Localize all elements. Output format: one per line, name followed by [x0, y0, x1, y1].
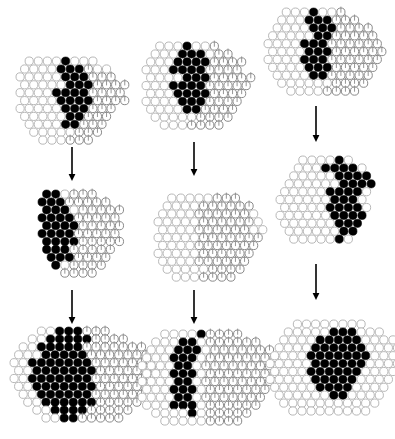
- cell-filled: [56, 230, 64, 238]
- cell-filled: [61, 222, 69, 230]
- cell-filled: [178, 66, 186, 74]
- cell-open: [291, 71, 299, 79]
- cell-filled: [349, 196, 357, 204]
- cell-open: [317, 203, 325, 211]
- cell-open: [316, 407, 324, 415]
- cell-open: [57, 81, 65, 89]
- cell-open: [287, 48, 295, 56]
- cell-open: [152, 409, 160, 417]
- cell-open: [276, 196, 284, 204]
- cell-marked: [215, 416, 223, 426]
- cell-open: [143, 401, 151, 409]
- cell-filled: [69, 382, 77, 390]
- cell-open: [192, 42, 200, 50]
- cell-open: [269, 32, 277, 40]
- cell-open: [299, 219, 307, 227]
- cell-filled: [310, 55, 318, 63]
- cell-open: [282, 40, 290, 48]
- cell-open: [266, 375, 274, 383]
- cell-filled: [314, 63, 322, 71]
- cell-open: [312, 227, 320, 235]
- cell-filled: [325, 383, 333, 391]
- cell-open: [61, 190, 69, 198]
- cell-filled: [47, 253, 55, 261]
- cell-marked: [243, 337, 251, 347]
- cell-open: [290, 203, 298, 211]
- cell-filled: [46, 374, 54, 382]
- cell-filled: [71, 89, 79, 97]
- cell-open: [169, 50, 177, 58]
- cell-open: [43, 57, 51, 65]
- cell-filled: [188, 409, 196, 417]
- cell-marked: [206, 416, 214, 426]
- cell-filled: [319, 40, 327, 48]
- cell-open: [170, 330, 178, 338]
- cell-filled: [174, 393, 182, 401]
- cell-marked: [247, 72, 255, 82]
- cell-open: [289, 407, 297, 415]
- cell-filled: [184, 346, 192, 354]
- cell-open: [52, 104, 60, 112]
- cell-filled: [52, 245, 60, 253]
- cell-filled: [305, 63, 313, 71]
- cell-open: [93, 65, 101, 73]
- cell-open: [186, 257, 194, 265]
- cell-marked: [124, 405, 132, 415]
- cell-open: [28, 343, 36, 351]
- cell-filled: [328, 24, 336, 32]
- cell-open: [303, 180, 311, 188]
- cell-open: [178, 121, 186, 129]
- cell-open: [284, 375, 292, 383]
- cell-open: [322, 227, 330, 235]
- cell-filled: [57, 97, 65, 105]
- cell-open: [273, 40, 281, 48]
- cell-marked: [115, 204, 123, 214]
- cell-open: [39, 97, 47, 105]
- cell-open: [142, 66, 150, 74]
- cell-open: [319, 8, 327, 16]
- cell-filled: [197, 97, 205, 105]
- cell-filled: [80, 104, 88, 112]
- cell-filled: [28, 374, 36, 382]
- cell-open: [282, 24, 290, 32]
- cell-open: [37, 335, 45, 343]
- cell-open: [161, 354, 169, 362]
- cell-filled: [325, 336, 333, 344]
- cell-filled: [201, 58, 209, 66]
- cell-open: [303, 211, 311, 219]
- cell-filled: [75, 112, 83, 120]
- cell-open: [308, 203, 316, 211]
- cell-filled: [42, 398, 50, 406]
- cell-open: [278, 32, 286, 40]
- cell-filled: [83, 374, 91, 382]
- cell-marked: [70, 268, 78, 278]
- cell-open: [362, 407, 370, 415]
- cell-marked: [75, 135, 83, 145]
- cell-filled: [38, 230, 46, 238]
- cell-open: [282, 55, 290, 63]
- cell-filled: [353, 203, 361, 211]
- cell-marked: [218, 272, 226, 282]
- cell-open: [89, 57, 97, 65]
- cell-open: [300, 24, 308, 32]
- cell-open: [15, 367, 23, 375]
- cell-filled: [46, 390, 54, 398]
- cell-open: [273, 55, 281, 63]
- cell-open: [179, 330, 187, 338]
- cell-filled: [305, 48, 313, 56]
- cell-open: [259, 226, 267, 234]
- cell-filled: [348, 344, 356, 352]
- cell-filled: [314, 16, 322, 24]
- cell-marked: [341, 86, 349, 96]
- cell-open: [300, 71, 308, 79]
- cell-filled: [179, 354, 187, 362]
- cell-open: [43, 73, 51, 81]
- cell-open: [322, 180, 330, 188]
- cell-open: [163, 249, 171, 257]
- cell-filled: [62, 73, 70, 81]
- cell-marked: [215, 337, 223, 347]
- cell-open: [102, 65, 110, 73]
- cell-filled: [325, 367, 333, 375]
- cell-open: [289, 352, 297, 360]
- cell-open: [177, 226, 185, 234]
